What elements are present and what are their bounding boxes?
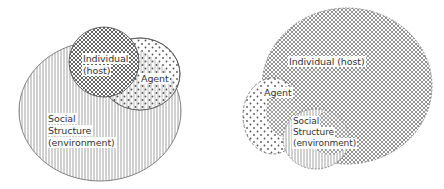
- left-social-label-2: Structure: [47, 125, 92, 136]
- right-agent-label: Agent: [263, 87, 293, 98]
- left-social-label-1: Social: [47, 113, 77, 124]
- right-social-label-1: Social: [292, 116, 320, 127]
- right-individual-label: Individual (host): [288, 56, 366, 67]
- right-social-label-2: Structure: [292, 127, 335, 138]
- left-diagram: [19, 27, 181, 181]
- right-social-label-3: (environment): [292, 138, 357, 149]
- left-social-label-3: (environment): [47, 137, 116, 148]
- left-individual-label-2: (host): [82, 65, 111, 76]
- venn-diagrams: [0, 0, 444, 189]
- left-agent-label: Agent: [140, 73, 170, 84]
- left-individual-label-1: Individual: [82, 53, 129, 64]
